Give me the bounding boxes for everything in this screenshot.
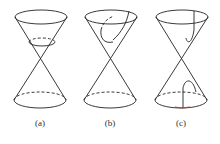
- cone-b: [84, 10, 137, 108]
- cone-c: [155, 10, 208, 108]
- panel-label-b: (b): [95, 118, 125, 128]
- panel-label-c: (c): [166, 118, 196, 128]
- panel-label-a: (a): [25, 118, 55, 128]
- highlight-mark: [175, 107, 190, 108]
- cone-a: [14, 10, 67, 108]
